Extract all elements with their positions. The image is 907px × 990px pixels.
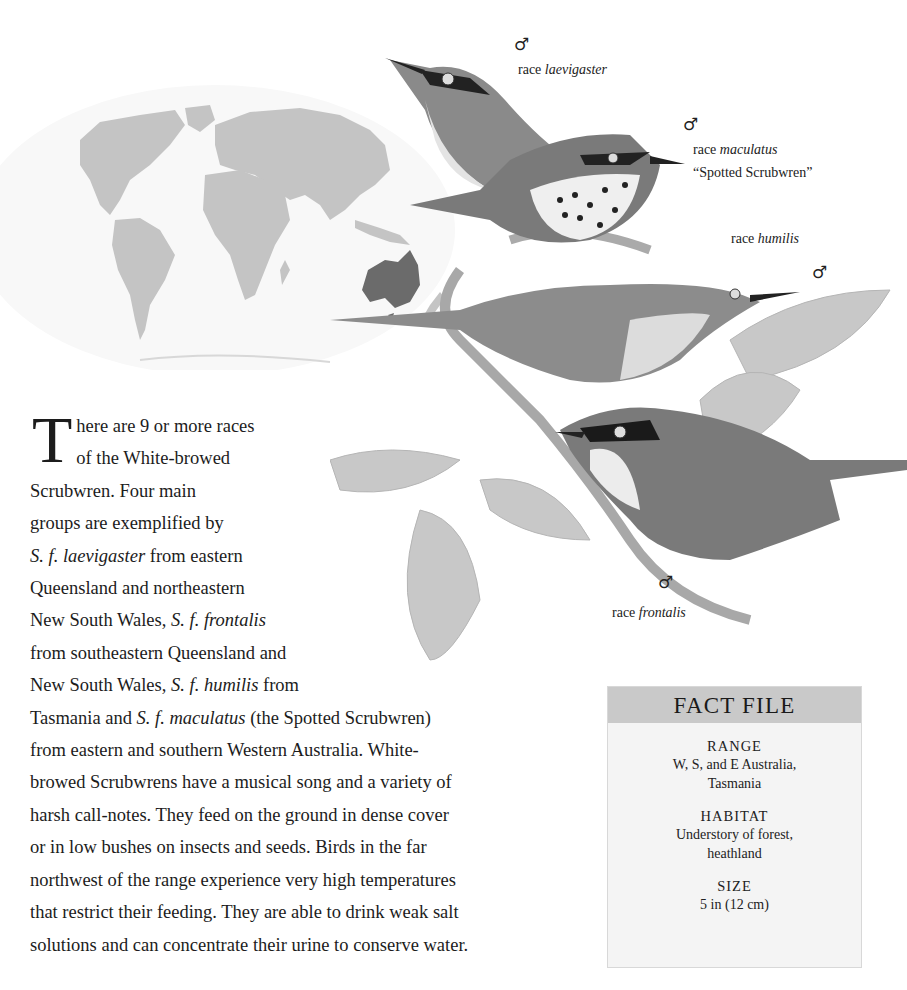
body-text-line: solutions and can concentrate their urin… (30, 929, 610, 961)
text-run: New South Wales, (30, 675, 171, 695)
species-name: S. f. frontalis (171, 610, 266, 630)
text-run: harsh call-notes. They feed on the groun… (30, 805, 449, 825)
body-text-line: or in low bushes on insects and seeds. B… (30, 831, 610, 863)
label-race-frontalis: race frontalis (612, 603, 686, 622)
text-run: northwest of the range experience very h… (30, 870, 456, 890)
fact-file-section-size: SIZE5 in (12 cm) (608, 877, 861, 914)
text-run: or in low bushes on insects and seeds. B… (30, 837, 427, 857)
text-run: browed Scrubwrens have a musical song an… (30, 772, 452, 792)
text-run: Queensland and northeastern (30, 578, 245, 598)
text-run: (the Spotted Scrubwren) (246, 708, 431, 728)
fact-file-sections: RANGEW, S, and E Australia,TasmaniaHABIT… (608, 737, 861, 914)
text-run: from eastern and southern Western Austra… (30, 740, 419, 760)
drop-cap: T (32, 414, 72, 472)
fact-file-section-value: Tasmania (608, 774, 861, 793)
text-run: from eastern (145, 546, 243, 566)
body-text-line: Queensland and northeastern (30, 572, 610, 604)
fact-file-title: FACT FILE (608, 687, 861, 723)
fact-file-section-range: RANGEW, S, and E Australia,Tasmania (608, 737, 861, 793)
body-text-line: from eastern and southern Western Austra… (30, 734, 610, 766)
fact-file-section-value: 5 in (12 cm) (608, 895, 861, 914)
body-text-line: Tasmania and S. f. maculatus (the Spotte… (30, 702, 610, 734)
body-text-line: from southeastern Queensland and (30, 637, 610, 669)
body-text-line: browed Scrubwrens have a musical song an… (30, 766, 610, 798)
text-run: solutions and can concentrate their urin… (30, 935, 468, 955)
fact-file-section-value: Understory of forest, (608, 825, 861, 844)
body-text-line: New South Wales, S. f. humilis from (30, 669, 610, 701)
text-run: Tasmania and (30, 708, 137, 728)
text-run: from (258, 675, 299, 695)
body-text-line: here are 9 or more races (30, 410, 610, 442)
male-symbol-icon: ♂ (812, 264, 827, 281)
text-run: groups are exemplified by (30, 513, 224, 533)
body-text-line: that restrict their feeding. They are ab… (30, 896, 610, 928)
fact-file-section-habitat: HABITATUnderstory of forest,heathland (608, 807, 861, 863)
fact-file-box: FACT FILE RANGEW, S, and E Australia,Tas… (607, 686, 862, 968)
fact-file-section-title: HABITAT (608, 807, 861, 825)
body-text-line: groups are exemplified by (30, 507, 610, 539)
body-text-line: New South Wales, S. f. frontalis (30, 604, 610, 636)
label-race-humilis: race humilis (731, 229, 799, 248)
fact-file-section-value: W, S, and E Australia, (608, 755, 861, 774)
male-symbol-icon: ♂ (658, 574, 673, 591)
text-run: here are 9 or more races (76, 416, 254, 436)
label-race-maculatus: race maculatus (693, 140, 777, 159)
label-race-laevigaster: race laevigaster (518, 60, 607, 79)
body-text-line: of the White-browed (30, 442, 610, 474)
species-description: T here are 9 or more racesof the White-b… (30, 410, 610, 961)
text-run: New South Wales, (30, 610, 171, 630)
label-spotted-scrubwren: “Spotted Scrubwren” (693, 163, 812, 182)
species-name: S. f. humilis (171, 675, 258, 695)
male-symbol-icon: ♂ (683, 116, 698, 133)
species-name: S. f. laevigaster (30, 546, 145, 566)
text-run: Scrubwren. Four main (30, 481, 196, 501)
text-run: that restrict their feeding. They are ab… (30, 902, 459, 922)
fact-file-section-title: RANGE (608, 737, 861, 755)
fact-file-section-title: SIZE (608, 877, 861, 895)
fact-file-section-value: heathland (608, 844, 861, 863)
body-text-line: northwest of the range experience very h… (30, 864, 610, 896)
bird-humilis (330, 284, 800, 383)
body-text-line: Scrubwren. Four main (30, 475, 610, 507)
text-run: of the White-browed (76, 448, 230, 468)
text-run: from southeastern Queensland and (30, 643, 286, 663)
body-text-line: S. f. laevigaster from eastern (30, 540, 610, 572)
male-symbol-icon: ♂ (514, 36, 529, 53)
species-name: S. f. maculatus (137, 708, 246, 728)
body-text-line: harsh call-notes. They feed on the groun… (30, 799, 610, 831)
